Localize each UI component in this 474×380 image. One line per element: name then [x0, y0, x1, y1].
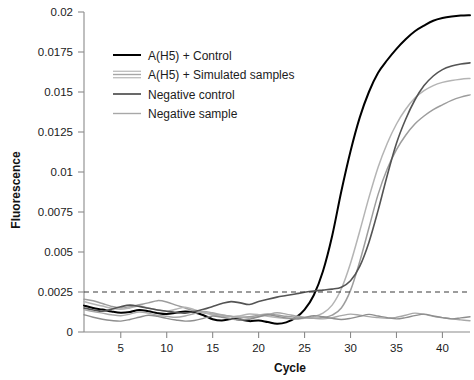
- legend-label: A(H5) + Control: [148, 49, 232, 63]
- x-tick-label: 20: [252, 342, 265, 354]
- y-axis-title: Fluorescence: [9, 151, 23, 229]
- legend-label: Negative sample: [148, 107, 238, 121]
- x-axis-tick-group: 510152025303540: [118, 332, 449, 354]
- y-tick-label: 0.01: [51, 166, 73, 178]
- x-tick-label: 10: [160, 342, 173, 354]
- x-axis-title: Cycle: [274, 361, 306, 375]
- x-tick-label: 25: [298, 342, 311, 354]
- y-tick-label: 0.0075: [38, 206, 73, 218]
- x-tick-label: 35: [390, 342, 403, 354]
- x-tick-label: 5: [118, 342, 124, 354]
- x-tick-label: 30: [344, 342, 357, 354]
- legend-label: A(H5) + Simulated samples: [148, 68, 294, 82]
- y-tick-label: 0: [67, 326, 73, 338]
- legend-item: Negative control: [113, 88, 235, 102]
- series-line-0: [84, 15, 470, 323]
- legend-item: Negative sample: [113, 107, 238, 121]
- x-tick-label: 40: [436, 342, 449, 354]
- y-tick-label: 0.005: [44, 246, 73, 258]
- y-axis-tick-group: 00.00250.0050.00750.010.01250.0150.01750…: [38, 6, 84, 338]
- fluorescence-amplification-chart: 00.00250.0050.00750.010.01250.0150.01750…: [0, 0, 474, 380]
- data-series-group: [84, 15, 470, 323]
- y-tick-label: 0.0125: [38, 126, 73, 138]
- y-tick-label: 0.02: [51, 6, 73, 18]
- legend-item: A(H5) + Simulated samples: [113, 68, 294, 82]
- chart-canvas: 00.00250.0050.00750.010.01250.0150.01750…: [0, 0, 474, 380]
- series-line-1: [84, 95, 470, 318]
- x-tick-label: 15: [206, 342, 219, 354]
- y-tick-label: 0.015: [44, 86, 73, 98]
- chart-legend: A(H5) + ControlA(H5) + Simulated samples…: [113, 49, 294, 122]
- series-line-2: [84, 78, 470, 318]
- y-tick-label: 0.0025: [38, 286, 73, 298]
- legend-item: A(H5) + Control: [113, 49, 232, 63]
- legend-label: Negative control: [148, 88, 235, 102]
- y-tick-label: 0.0175: [38, 46, 73, 58]
